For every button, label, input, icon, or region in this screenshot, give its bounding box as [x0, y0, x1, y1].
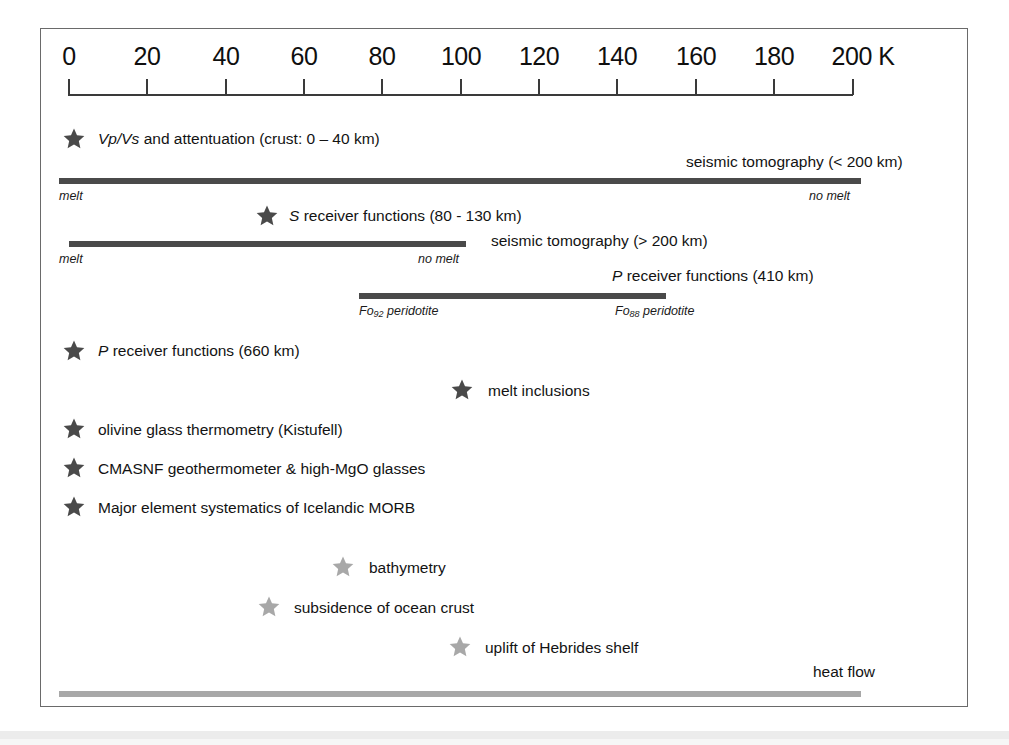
axis-tick-label-80: 80: [369, 42, 396, 71]
axis-tick-120: [538, 79, 540, 95]
row-label-seismic-tomo-shallow: seismic tomography (< 200 km): [686, 153, 903, 171]
bar-seismic-tomo-deep: [69, 241, 466, 247]
axis-tick-label-140: 140: [597, 42, 637, 71]
row-label-p-receiver-410-prefix: P: [612, 267, 622, 284]
axis-tick-200: [852, 79, 854, 95]
axis-tick-label-160: 160: [676, 42, 716, 71]
star-dark-icon: [451, 379, 473, 400]
note-fo88-peridotite: Fo88 peridotite: [615, 304, 695, 319]
axis-tick-label-20: 20: [134, 42, 161, 71]
row-label-p-receiver-410: P receiver functions (410 km): [612, 267, 814, 285]
row-label-seismic-tomo-deep: seismic tomography (> 200 km): [491, 232, 708, 250]
note-melt-shallow: melt: [59, 189, 83, 203]
bar-p-receiver-410: [359, 293, 666, 299]
bar-seismic-tomo-shallow: [59, 178, 861, 184]
row-label-olivine-glass: olivine glass thermometry (Kistufell): [98, 421, 343, 439]
row-label-s-receiver-rest: receiver functions (80 - 130 km): [299, 207, 521, 224]
row-label-s-receiver: S receiver functions (80 - 130 km): [289, 207, 522, 225]
star-dark-icon: [63, 496, 85, 517]
row-label-vpvs-rest: and attentuation (crust: 0 – 40 km): [139, 130, 379, 147]
note-no-melt-deep: no melt: [418, 252, 459, 266]
note-fo92-post: peridotite: [384, 304, 439, 318]
note-fo88-sub: 88: [630, 309, 640, 319]
temperature-axis: 0 20 40 60 80 100 120 140 160 180 200 K: [41, 29, 969, 109]
axis-tick-180: [773, 79, 775, 95]
row-label-subsidence: subsidence of ocean crust: [294, 599, 474, 617]
note-no-melt-shallow: no melt: [809, 189, 850, 203]
note-fo88-pre: Fo: [615, 304, 630, 318]
note-fo92-peridotite: Fo92 peridotite: [359, 304, 439, 319]
star-light-icon: [258, 596, 280, 617]
axis-tick-60: [303, 79, 305, 95]
star-light-icon: [449, 636, 471, 657]
row-label-vpvs-prefix: Vp/Vs: [98, 130, 139, 147]
row-label-p-receiver-660-prefix: P: [98, 342, 108, 359]
row-label-melt-inclusions: melt inclusions: [488, 382, 590, 400]
star-dark-icon: [63, 128, 85, 149]
axis-tick-140: [616, 79, 618, 95]
star-dark-icon: [63, 340, 85, 361]
axis-tick-100: [460, 79, 462, 95]
axis-tick-label-120: 120: [519, 42, 559, 71]
row-label-p-receiver-660: P receiver functions (660 km): [98, 342, 300, 360]
axis-tick-label-0: 0: [62, 42, 75, 71]
row-label-s-receiver-prefix: S: [289, 207, 299, 224]
axis-tick-label-100: 100: [441, 42, 481, 71]
row-label-heat-flow: heat flow: [813, 663, 875, 681]
row-label-bathymetry: bathymetry: [369, 559, 446, 577]
page-bottom-strip: [0, 731, 1009, 739]
row-label-cmasnf: CMASNF geothermometer & high-MgO glasses: [98, 460, 425, 478]
row-label-vpvs: Vp/Vs and attentuation (crust: 0 – 40 km…: [98, 130, 380, 148]
row-label-p-receiver-410-rest: receiver functions (410 km): [622, 267, 813, 284]
axis-tick-40: [225, 79, 227, 95]
axis-tick-160: [695, 79, 697, 95]
star-dark-icon: [63, 457, 85, 478]
axis-tick-label-40: 40: [213, 42, 240, 71]
note-fo92-sub: 92: [374, 309, 384, 319]
star-dark-icon: [256, 205, 278, 226]
page-bottom-strip-secondary: [0, 739, 1009, 745]
axis-tick-label-200: 200 K: [832, 42, 895, 71]
row-label-uplift: uplift of Hebrides shelf: [485, 639, 638, 657]
bar-heat-flow: [59, 691, 861, 697]
axis-tick-label-180: 180: [754, 42, 794, 71]
star-dark-icon: [63, 418, 85, 439]
row-label-major-element: Major element systematics of Icelandic M…: [98, 499, 415, 517]
figure-canvas: 0 20 40 60 80 100 120 140 160 180 200 K: [0, 0, 1009, 745]
figure-frame: 0 20 40 60 80 100 120 140 160 180 200 K: [40, 28, 968, 707]
axis-tick-80: [381, 79, 383, 95]
note-fo92-pre: Fo: [359, 304, 374, 318]
axis-tick-20: [146, 79, 148, 95]
note-fo88-post: peridotite: [640, 304, 695, 318]
star-light-icon: [332, 556, 354, 577]
row-label-p-receiver-660-rest: receiver functions (660 km): [108, 342, 299, 359]
note-melt-deep: melt: [59, 252, 83, 266]
axis-tick-label-60: 60: [291, 42, 318, 71]
axis-tick-0: [68, 79, 70, 95]
